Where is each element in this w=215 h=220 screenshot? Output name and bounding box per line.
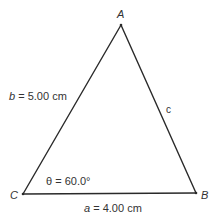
side-a-var: a bbox=[84, 202, 90, 214]
vertex-label-c: C bbox=[10, 189, 18, 201]
angle-eq: = bbox=[55, 175, 61, 187]
side-b-line bbox=[23, 25, 121, 194]
triangle-diagram bbox=[0, 0, 215, 220]
vertex-b-dot bbox=[195, 192, 198, 195]
vertex-a-dot bbox=[120, 24, 123, 27]
side-a-line bbox=[23, 193, 196, 194]
side-a-label: a = 4.00 cm bbox=[84, 202, 142, 214]
side-b-value: 5.00 cm bbox=[28, 90, 67, 102]
side-c-label: c bbox=[166, 104, 171, 116]
angle-value: 60.0° bbox=[65, 175, 91, 187]
side-a-eq: = bbox=[93, 202, 99, 214]
angle-theta-label: θ = 60.0° bbox=[46, 175, 91, 187]
vertex-c-dot bbox=[22, 193, 25, 196]
side-c-line bbox=[121, 25, 196, 193]
side-b-eq: = bbox=[18, 90, 24, 102]
angle-var: θ bbox=[46, 175, 52, 187]
vertex-label-a: A bbox=[117, 8, 124, 20]
side-b-var: b bbox=[9, 90, 15, 102]
vertex-label-b: B bbox=[201, 189, 208, 201]
side-b-label: b = 5.00 cm bbox=[9, 90, 67, 102]
side-a-value: 4.00 cm bbox=[103, 202, 142, 214]
